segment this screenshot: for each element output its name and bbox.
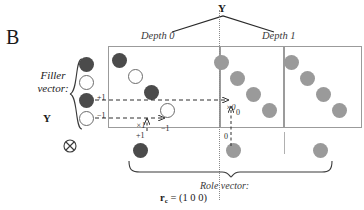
dashed-arrow-layer — [0, 0, 364, 210]
role-vector-formula-rest: = (1 0 0) — [168, 192, 207, 203]
annotation-zero-bottom: 0 — [224, 132, 228, 141]
role-vector-formula: rc = (1 0 0) — [160, 192, 207, 205]
annotation-minus-one-mid: −1 — [161, 124, 170, 133]
annotation-zero-right: 0 — [236, 108, 240, 117]
annotation-plus-one-bottom: +1 — [136, 131, 145, 140]
role-vector-label: Role vector: — [200, 180, 249, 191]
annotation-times-one: ×1 — [136, 121, 145, 130]
annotation-minus-one-left: −1 — [97, 111, 106, 120]
role-vector-brace-icon — [128, 160, 334, 178]
annotation-times-zero: ×0 — [226, 103, 235, 112]
figure-panel-b: Y B Depth 0 Depth 1 Filler vector: Y — [0, 0, 364, 210]
annotation-plus-one-left: +1 — [97, 93, 106, 102]
